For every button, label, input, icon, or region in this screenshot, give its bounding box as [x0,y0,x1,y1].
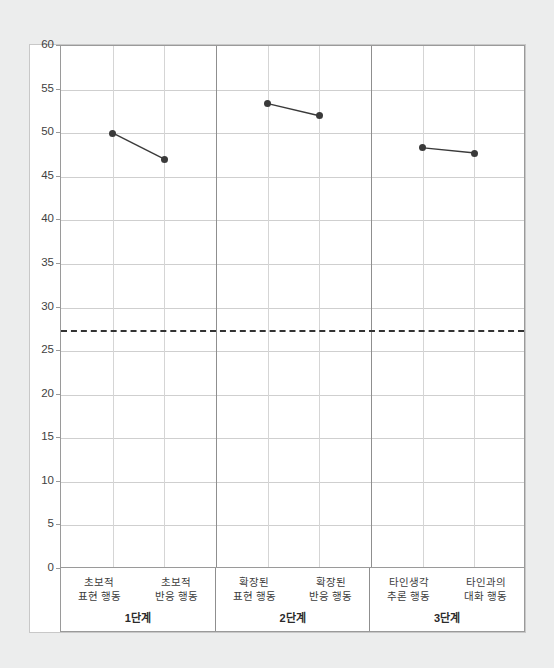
category-label: 확장된반응 행동 [293,575,370,604]
category-label-line: 표현 행동 [61,589,138,603]
horizontal-gridline [61,177,524,178]
condition-label-row: 타인생각추론 행동타인과의대화 행동 [370,575,524,604]
vertical-gridline [474,46,475,567]
category-label-line: 초보적 [61,575,138,589]
data-point [419,144,426,151]
y-tick-label: 60 [10,39,54,51]
category-label-line: 반응 행동 [293,589,370,603]
series-line [421,148,472,153]
x-axis-label-strip: 초보적표현 행동초보적반응 행동1단계확장된표현 행동확장된반응 행동2단계타인… [60,568,525,632]
vertical-gridline [319,46,320,567]
horizontal-gridline [61,525,524,526]
category-label-line: 초보적 [138,575,215,589]
plot-area [60,45,525,568]
chart-container: 051015202530354045505560 초보적표현 행동초보적반응 행… [0,0,554,668]
y-tick-label: 5 [10,519,54,531]
y-tick-label: 30 [10,301,54,313]
category-label-line: 타인과의 [447,575,524,589]
category-label: 타인과의대화 행동 [447,575,524,604]
series-line [267,103,318,115]
y-tick-label: 55 [10,83,54,95]
y-tick-label: 15 [10,432,54,444]
panel-separator [371,46,372,567]
y-tick-label: 50 [10,126,54,138]
category-label-line: 확장된 [216,575,293,589]
category-label-line: 확장된 [293,575,370,589]
stage-label: 1단계 [125,609,151,625]
data-point [471,150,478,157]
data-point [316,112,323,119]
x-axis-panel-2: 확장된표현 행동확장된반응 행동2단계 [215,568,370,631]
y-tick-label: 10 [10,475,54,487]
stage-label: 2단계 [279,609,305,625]
horizontal-gridline [61,220,524,221]
data-point [264,100,271,107]
x-axis-panel-1: 초보적표현 행동초보적반응 행동1단계 [61,568,215,631]
category-label: 확장된표현 행동 [216,575,293,604]
horizontal-gridline [61,264,524,265]
y-tick-label: 25 [10,344,54,356]
vertical-gridline [423,46,424,567]
reference-line-dashed [61,330,524,332]
horizontal-gridline [61,133,524,134]
x-axis-panel-3: 타인생각추론 행동타인과의대화 행동3단계 [369,568,524,631]
horizontal-gridline [61,351,524,352]
vertical-gridline [268,46,269,567]
category-label-line: 표현 행동 [216,589,293,603]
category-label-line: 추론 행동 [370,589,447,603]
vertical-gridline [164,46,165,567]
y-tick-label: 0 [10,562,54,574]
category-label: 타인생각추론 행동 [370,575,447,604]
condition-label-row: 확장된표현 행동확장된반응 행동 [216,575,370,604]
horizontal-gridline [61,90,524,91]
y-tick-label: 20 [10,388,54,400]
y-tick-label: 45 [10,170,54,182]
category-label: 초보적표현 행동 [61,575,138,604]
stage-label: 3단계 [434,609,460,625]
series-line-paths [61,46,524,567]
data-point [109,130,116,137]
condition-label-row: 초보적표현 행동초보적반응 행동 [61,575,215,604]
horizontal-gridline [61,438,524,439]
category-label: 초보적반응 행동 [138,575,215,604]
series-line [112,133,163,159]
horizontal-gridline [61,308,524,309]
y-tick-label: 35 [10,257,54,269]
category-label-line: 반응 행동 [138,589,215,603]
data-point [161,156,168,163]
category-label-line: 타인생각 [370,575,447,589]
panel-separator [216,46,217,567]
horizontal-gridline [61,482,524,483]
category-label-line: 대화 행동 [447,589,524,603]
horizontal-gridline [61,395,524,396]
y-tick-label: 40 [10,214,54,226]
vertical-gridline [113,46,114,567]
